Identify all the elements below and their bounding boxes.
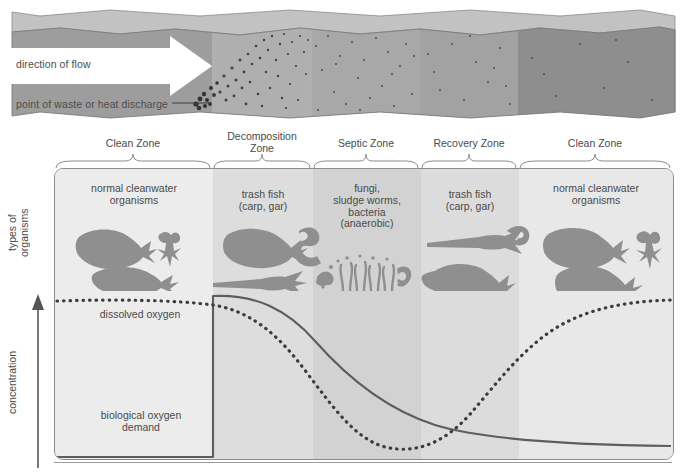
zone-caption-clean-zone-right: Clean Zone [518,138,672,150]
zone-caption-septic-zone: Septic Zone [312,138,420,150]
chart-baseline [54,462,672,463]
discharge-point-label: point of waste or heat discharge [16,98,168,110]
types-of-organisms-axis-label: types of organisms [6,196,30,270]
stream-cross-section: direction of flow point of waste or heat… [0,0,687,128]
flow-direction-label: direction of flow [16,58,91,70]
concentration-axis-arrow [25,292,51,468]
concentration-axis-label: concentration [6,330,18,434]
oxygen-sag-diagram: direction of flow point of waste or heat… [0,0,687,472]
biological-oxygen-demand-curve [57,296,671,457]
curve-layer [55,169,673,459]
concentration-chart-panel: normal cleanwater organisms trash fish (… [54,168,674,460]
zone-caption-clean-zone-left: Clean Zone [54,138,212,150]
zone-caption-recovery-zone: Recovery Zone [420,138,518,150]
dissolved-oxygen-curve [57,300,671,449]
